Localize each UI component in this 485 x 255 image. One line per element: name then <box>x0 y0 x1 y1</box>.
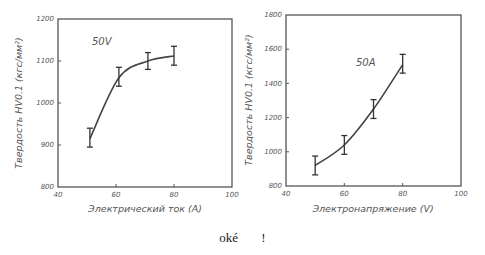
svg-text:800: 800 <box>41 183 55 191</box>
svg-text:1200: 1200 <box>36 15 54 23</box>
error-bar <box>371 100 377 119</box>
svg-text:80: 80 <box>170 191 179 199</box>
svg-text:40: 40 <box>282 190 291 198</box>
series-annotation: 50V <box>92 36 113 47</box>
svg-text:1000: 1000 <box>264 148 282 156</box>
svg-text:1200: 1200 <box>264 114 282 122</box>
svg-text:100: 100 <box>454 190 468 198</box>
chart-current: 800 900 1000 1100 1200 40 60 80 100 Элек… <box>13 15 239 214</box>
y-axis-title: Твердость HV0.1 (кгс/мм²) <box>13 37 24 169</box>
svg-text:1400: 1400 <box>264 80 282 88</box>
caption-mark: ! <box>261 230 265 245</box>
chart-voltage: 800 1000 1200 1400 1600 1800 40 60 80 10… <box>243 11 468 214</box>
data-series <box>87 46 177 147</box>
series-annotation: 50A <box>356 57 376 68</box>
series-curve <box>315 65 403 166</box>
y-tick-labels: 800 1000 1200 1400 1600 1800 <box>264 11 282 190</box>
x-axis-title: Электрический ток (A) <box>87 203 202 214</box>
x-axis-title: Электронапряжение (V) <box>311 203 433 214</box>
svg-text:800: 800 <box>269 182 283 190</box>
caption-word: oké <box>219 230 238 245</box>
error-bar <box>400 54 406 73</box>
plot-frame <box>58 19 232 187</box>
series-curve <box>90 56 174 139</box>
svg-text:100: 100 <box>225 191 239 199</box>
x-tick-labels: 40 60 80 100 <box>282 190 469 198</box>
svg-text:1800: 1800 <box>264 11 282 19</box>
svg-text:40: 40 <box>54 191 63 199</box>
caption: oké ! <box>0 230 485 246</box>
y-axis-title: Твердость HV0.1 (кгс/мм²) <box>243 34 254 166</box>
svg-text:80: 80 <box>398 190 407 198</box>
svg-text:1100: 1100 <box>36 57 54 65</box>
svg-text:60: 60 <box>340 190 349 198</box>
error-bar <box>312 156 318 175</box>
svg-text:1600: 1600 <box>264 45 282 53</box>
svg-text:60: 60 <box>112 191 121 199</box>
svg-text:1000: 1000 <box>36 99 54 107</box>
error-bar <box>341 136 347 155</box>
x-tick-labels: 40 60 80 100 <box>54 191 240 199</box>
error-bar <box>116 67 122 86</box>
figure: 800 900 1000 1100 1200 40 60 80 100 Элек… <box>0 0 485 255</box>
error-bar <box>87 128 93 147</box>
svg-text:900: 900 <box>41 141 55 149</box>
y-tick-labels: 800 900 1000 1100 1200 <box>36 15 54 191</box>
data-series <box>312 54 406 175</box>
